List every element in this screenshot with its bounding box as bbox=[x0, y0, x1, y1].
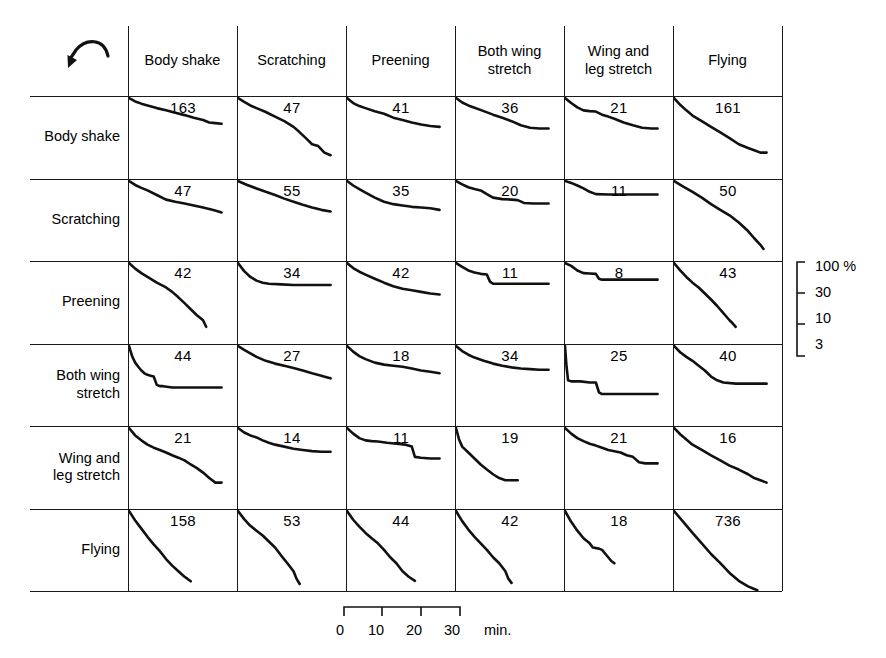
x-axis-legend: 0 10 20 30 min. bbox=[336, 604, 556, 648]
matrix-cell: 14 bbox=[238, 427, 346, 509]
matrix-cell: 18 bbox=[347, 345, 455, 427]
x-tick-0: 0 bbox=[336, 622, 344, 638]
matrix-cell: 16 bbox=[674, 427, 782, 509]
matrix-cell: 50 bbox=[674, 180, 782, 262]
x-tick-10: 10 bbox=[368, 622, 384, 638]
cell-count: 736 bbox=[715, 512, 741, 529]
matrix-cell: 19 bbox=[456, 427, 564, 509]
matrix-cell: 21 bbox=[565, 97, 673, 179]
cell-count: 55 bbox=[283, 182, 300, 199]
matrix-cell: 42 bbox=[129, 262, 237, 344]
curved-arrow-icon bbox=[30, 26, 128, 96]
cell-count: 21 bbox=[610, 429, 627, 446]
cell-count: 44 bbox=[174, 347, 191, 364]
matrix-cell: 47 bbox=[238, 97, 346, 179]
cell-count: 42 bbox=[392, 264, 409, 281]
cell-count: 34 bbox=[501, 347, 518, 364]
grid-hline bbox=[30, 591, 782, 592]
cell-count: 36 bbox=[501, 99, 518, 116]
matrix-cell: 36 bbox=[456, 97, 564, 179]
cell-count: 161 bbox=[715, 99, 741, 116]
cell-count: 42 bbox=[501, 512, 518, 529]
matrix-cell: 25 bbox=[565, 345, 673, 427]
transition-matrix: Body shakeScratchingPreeningBoth wingstr… bbox=[30, 26, 782, 592]
matrix-cell: 11 bbox=[565, 180, 673, 262]
matrix-cell: 35 bbox=[347, 180, 455, 262]
matrix-cell: 34 bbox=[456, 345, 564, 427]
x-axis-unit: min. bbox=[484, 622, 511, 638]
x-tick-20: 20 bbox=[406, 622, 422, 638]
cell-count: 20 bbox=[501, 182, 518, 199]
column-header-preening: Preening bbox=[346, 26, 455, 96]
y-tick-100: 100 % bbox=[815, 258, 856, 274]
matrix-cell: 43 bbox=[674, 262, 782, 344]
row-header-wing-and-leg-stretch: Wing andleg stretch bbox=[30, 426, 120, 509]
matrix-cell: 21 bbox=[565, 427, 673, 509]
matrix-cell: 44 bbox=[347, 510, 455, 592]
matrix-cell: 53 bbox=[238, 510, 346, 592]
cell-count: 47 bbox=[174, 182, 191, 199]
matrix-cell: 18 bbox=[565, 510, 673, 592]
column-header-flying: Flying bbox=[673, 26, 782, 96]
cell-count: 40 bbox=[719, 347, 736, 364]
matrix-cell: 42 bbox=[347, 262, 455, 344]
cell-count: 53 bbox=[283, 512, 300, 529]
cell-count: 43 bbox=[719, 264, 736, 281]
x-tick-30: 30 bbox=[444, 622, 460, 638]
matrix-cell: 27 bbox=[238, 345, 346, 427]
matrix-cell: 55 bbox=[238, 180, 346, 262]
cell-count: 44 bbox=[392, 512, 409, 529]
cell-count: 19 bbox=[501, 429, 518, 446]
matrix-cell: 736 bbox=[674, 510, 782, 592]
cell-count: 11 bbox=[611, 182, 627, 199]
matrix-cell: 161 bbox=[674, 97, 782, 179]
matrix-cell: 40 bbox=[674, 345, 782, 427]
matrix-cell: 44 bbox=[129, 345, 237, 427]
cell-count: 47 bbox=[283, 99, 300, 116]
cell-count: 42 bbox=[174, 264, 191, 281]
matrix-cell: 42 bbox=[456, 510, 564, 592]
matrix-cell: 11 bbox=[456, 262, 564, 344]
row-header-flying: Flying bbox=[30, 509, 120, 592]
matrix-cell: 158 bbox=[129, 510, 237, 592]
cell-count: 25 bbox=[610, 347, 627, 364]
cell-count: 34 bbox=[283, 264, 300, 281]
grid-vline bbox=[782, 26, 783, 591]
behaviour-transition-figure: Body shakeScratchingPreeningBoth wingstr… bbox=[0, 0, 886, 658]
cell-count: 21 bbox=[610, 99, 627, 116]
cell-count: 16 bbox=[719, 429, 736, 446]
cell-count: 18 bbox=[392, 347, 409, 364]
y-tick-3: 3 bbox=[815, 336, 823, 352]
y-tick-10: 10 bbox=[815, 310, 831, 326]
matrix-cell: 47 bbox=[129, 180, 237, 262]
y-axis-legend: 100 % 30 10 3 bbox=[793, 258, 883, 358]
column-header-body-shake: Body shake bbox=[128, 26, 237, 96]
cell-count: 41 bbox=[392, 99, 409, 116]
column-header-scratching: Scratching bbox=[237, 26, 346, 96]
row-header-scratching: Scratching bbox=[30, 179, 120, 262]
cell-count: 8 bbox=[615, 264, 624, 281]
cell-count: 21 bbox=[174, 429, 191, 446]
cell-count: 11 bbox=[502, 264, 518, 281]
matrix-cell: 163 bbox=[129, 97, 237, 179]
matrix-cell: 21 bbox=[129, 427, 237, 509]
column-header-both-wing-stretch: Both wingstretch bbox=[455, 26, 564, 96]
column-header-wing-and-leg-stretch: Wing andleg stretch bbox=[564, 26, 673, 96]
cell-count: 158 bbox=[170, 512, 196, 529]
matrix-cell: 20 bbox=[456, 180, 564, 262]
row-header-both-wing-stretch: Both wingstretch bbox=[30, 344, 120, 427]
cell-count: 11 bbox=[393, 429, 409, 446]
matrix-cell: 34 bbox=[238, 262, 346, 344]
matrix-cell: 8 bbox=[565, 262, 673, 344]
y-tick-30: 30 bbox=[815, 284, 831, 300]
row-header-preening: Preening bbox=[30, 261, 120, 344]
row-header-body-shake: Body shake bbox=[30, 96, 120, 179]
cell-count: 27 bbox=[283, 347, 300, 364]
cell-count: 35 bbox=[392, 182, 409, 199]
cell-count: 163 bbox=[170, 99, 196, 116]
cell-count: 50 bbox=[719, 182, 736, 199]
matrix-cell: 11 bbox=[347, 427, 455, 509]
matrix-cell: 41 bbox=[347, 97, 455, 179]
cell-count: 18 bbox=[610, 512, 627, 529]
cell-count: 14 bbox=[283, 429, 300, 446]
